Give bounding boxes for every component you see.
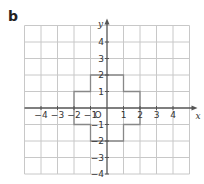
y-tick-label: −2 bbox=[91, 136, 104, 146]
x-axis-arrow-icon bbox=[192, 106, 198, 111]
coordinate-grid: −4−3−2−112344321−1−2−3−4Oxy bbox=[0, 0, 204, 184]
x-tick-label: −2 bbox=[67, 110, 80, 120]
y-tick-label: 3 bbox=[98, 54, 104, 64]
x-tick-label: 3 bbox=[154, 110, 160, 120]
x-tick-label: −3 bbox=[51, 110, 64, 120]
y-tick-label: −1 bbox=[91, 120, 104, 130]
x-tick-label: 1 bbox=[121, 110, 127, 120]
y-axis-arrow-icon bbox=[105, 19, 110, 25]
x-tick-label: 2 bbox=[137, 110, 143, 120]
y-tick-label: 4 bbox=[98, 37, 104, 47]
x-axis-label: x bbox=[196, 111, 201, 121]
y-tick-label: 2 bbox=[98, 70, 104, 80]
y-tick-label: −4 bbox=[91, 169, 105, 179]
y-tick-label: −3 bbox=[91, 153, 104, 163]
origin-label: O bbox=[94, 110, 101, 120]
x-tick-label: 4 bbox=[170, 110, 176, 120]
x-tick-label: −4 bbox=[34, 110, 48, 120]
y-tick-label: 1 bbox=[98, 87, 104, 97]
y-axis-label: y bbox=[97, 19, 104, 29]
